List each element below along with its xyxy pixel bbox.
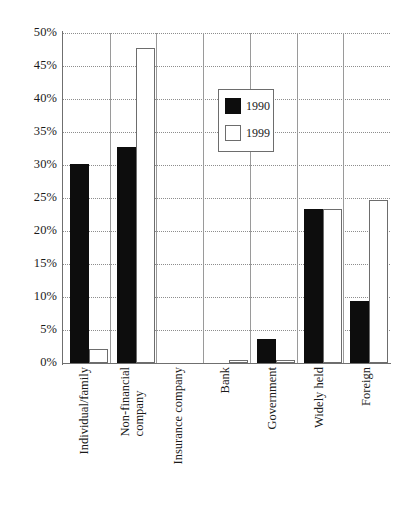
- x-label-widely-held: Widely held: [312, 367, 326, 428]
- y-tick-label: 50%: [5, 26, 57, 39]
- bar-1999-bank: [229, 360, 248, 363]
- y-tick-label: 30%: [5, 158, 57, 171]
- bar-1990-individual-family: [70, 164, 89, 363]
- legend-entry-1990: 1990: [225, 98, 270, 114]
- y-tick-label: 45%: [5, 59, 57, 72]
- bar-chart: 50% 45% 40% 35% 30% 25% 20% 15% 10% 5% 0…: [0, 0, 407, 506]
- bar-1999-widely-held: [323, 209, 342, 363]
- bar-1990-government: [257, 339, 276, 363]
- bar-group-bank: [203, 33, 250, 363]
- bar-1990-non-financial-company: [117, 147, 136, 364]
- bar-group-foreign: [343, 33, 390, 363]
- legend-label: 1990: [246, 100, 270, 112]
- plot-area: [63, 33, 390, 363]
- bar-1999-government: [276, 360, 295, 363]
- x-label-individual-family: Individual/family: [77, 367, 91, 454]
- bar-group-widely-held: [297, 33, 344, 363]
- legend-swatch-icon: [225, 98, 241, 114]
- legend-swatch-icon: [225, 125, 241, 141]
- x-axis-category-labels: Individual/family Non-financial company …: [63, 367, 390, 506]
- legend-label: 1999: [246, 127, 270, 139]
- x-axis-line: [62, 363, 391, 364]
- bar-group-insurance-company: [156, 33, 203, 363]
- x-label-foreign: Foreign: [359, 367, 373, 406]
- y-tick-label: 5%: [5, 323, 57, 336]
- y-tick-label: 20%: [5, 224, 57, 237]
- bar-group-individual-family: [63, 33, 110, 363]
- y-tick-label: 40%: [5, 92, 57, 105]
- x-label-government: Government: [265, 367, 279, 429]
- y-tick-label: 35%: [5, 125, 57, 138]
- y-tick-label: 0%: [5, 356, 57, 369]
- bar-1990-widely-held: [304, 209, 323, 363]
- y-axis-tick-labels: 50% 45% 40% 35% 30% 25% 20% 15% 10% 5% 0…: [0, 0, 57, 506]
- bar-group-non-financial-company: [110, 33, 157, 363]
- bar-1999-individual-family: [89, 349, 108, 363]
- x-label-bank: Bank: [218, 367, 232, 393]
- bar-1990-foreign: [350, 301, 369, 363]
- chart-legend: 1990 1999: [218, 89, 274, 152]
- y-tick-label: 25%: [5, 191, 57, 204]
- y-tick-label: 15%: [5, 257, 57, 270]
- x-label-insurance-company: Insurance company: [171, 367, 185, 465]
- bar-group-government: [250, 33, 297, 363]
- y-tick-label: 10%: [5, 290, 57, 303]
- x-label-non-financial-company: Non-financial company: [118, 367, 146, 436]
- bar-1999-non-financial-company: [136, 48, 155, 364]
- bar-1999-foreign: [369, 200, 388, 363]
- legend-entry-1999: 1999: [225, 125, 270, 141]
